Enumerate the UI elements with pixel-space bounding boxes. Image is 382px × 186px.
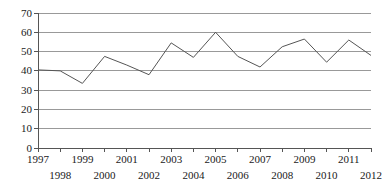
x-tick-label: 2000: [94, 170, 116, 181]
x-tick-label: 2003: [160, 154, 182, 165]
x-tick-label: 1997: [27, 154, 49, 165]
x-tick-label: 2005: [205, 154, 227, 165]
x-tick-label: 2004: [182, 170, 204, 181]
x-tick-label: 2012: [360, 170, 382, 181]
x-tick-label: 2002: [138, 170, 160, 181]
x-tick-label: 2011: [338, 154, 360, 165]
x-tick-label: 2007: [249, 154, 271, 165]
x-tick-label: 2001: [116, 154, 138, 165]
x-tick-label: 2008: [271, 170, 293, 181]
x-tick-label: 1998: [49, 170, 71, 181]
x-tick-label: 2009: [293, 154, 315, 165]
x-tick-label: 2006: [227, 170, 249, 181]
x-tick-label: 1999: [71, 154, 93, 165]
x-tick-label: 2010: [316, 170, 338, 181]
